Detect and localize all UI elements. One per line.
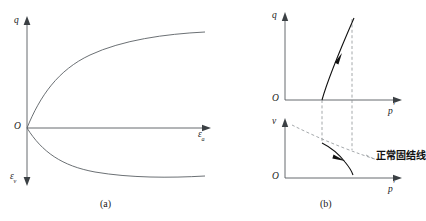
panel-a-epsa-subscript: a — [201, 135, 204, 142]
panel-a-y-axis-label-q: q — [14, 16, 19, 26]
panel-a-curve-epsv — [27, 128, 205, 177]
panel-a-curve-q — [27, 32, 205, 128]
panel-b-lower-prime-symbol: ′ — [393, 180, 395, 189]
panel-a-x-axis-label-epsilon-a: εa — [198, 130, 205, 141]
panel-a-epsv-subscript: v — [13, 177, 16, 184]
panel-b-annotation-leader — [366, 155, 374, 159]
panel-b-normal-consolidation-line — [292, 125, 378, 160]
panel-a-y-down-arrowhead — [24, 177, 31, 186]
panel-b-upper-prime-symbol: ′ — [393, 102, 395, 111]
panel-a-graphics — [24, 16, 211, 186]
panel-b-upper-origin-label: O — [272, 94, 279, 104]
panel-b-upper-x-axis-label-p-prime: p′ — [388, 104, 395, 117]
panel-a-origin-label: O — [14, 122, 21, 132]
panel-b-lower-origin-label: O — [272, 172, 279, 182]
panel-a-y-axis-label-epsilon-v: εv — [10, 172, 17, 183]
panel-b-caption: (b) — [320, 198, 332, 209]
panel-b-upper-graphics — [282, 12, 402, 150]
panel-a-y-up-arrowhead — [24, 16, 31, 25]
normal-consolidation-line-annotation: 正常固结线 — [376, 147, 426, 162]
panel-b-lower-y-axis-label-v: v — [272, 117, 276, 127]
panel-b-upper-y-arrowhead — [282, 12, 288, 21]
panel-a-caption: (a) — [100, 198, 111, 209]
panel-b-lower-y-arrowhead — [282, 118, 288, 127]
panel-b-upper-y-axis-label-q: q — [272, 11, 277, 21]
panel-b-lower-x-axis-label-p-prime: p′ — [388, 182, 395, 195]
